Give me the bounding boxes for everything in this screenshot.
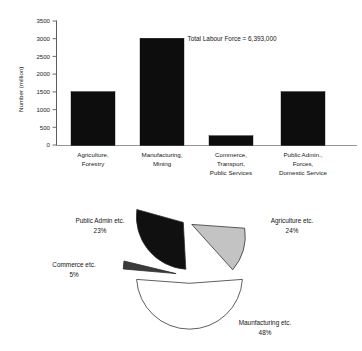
pie-label-manufacturing-percent: 48% xyxy=(259,329,272,336)
bar-chart-svg: Number (million) 3500 3000 2500 2000 150… xyxy=(0,0,362,195)
pie-label-commerce-percent: 5% xyxy=(69,271,79,278)
pie-slice-public-admin xyxy=(136,210,185,270)
pie-label-agriculture-name: Agriculture etc. xyxy=(271,217,314,225)
y-tick-label-1000: 1000 xyxy=(36,106,50,113)
category-label-public-admin-line3: Domestic Service xyxy=(279,169,328,176)
pie-chart-svg: Agriculture etc. 24% Maunfacturing etc. … xyxy=(0,195,362,351)
pie-label-public-admin-name: Public Admin etc. xyxy=(75,217,124,224)
pie-chart-panel: Agriculture etc. 24% Maunfacturing etc. … xyxy=(0,195,362,351)
category-label-manufacturing-line2: Mining xyxy=(153,160,172,167)
category-label-public-admin-line1: Public Admin., xyxy=(283,151,322,158)
category-label-commerce-line3: Public Services xyxy=(210,169,252,176)
y-tick-label-1500: 1500 xyxy=(36,88,50,95)
y-tick-label-3500: 3500 xyxy=(36,17,50,24)
y-tick-label-3000: 3000 xyxy=(36,35,50,42)
bar-agriculture xyxy=(71,92,115,146)
figure-container: Number (million) 3500 3000 2500 2000 150… xyxy=(0,0,362,351)
bar-manufacturing xyxy=(140,38,184,145)
pie-slice-agriculture xyxy=(192,224,245,269)
category-label-commerce-line1: Commerce, xyxy=(215,151,247,158)
y-tick-label-0: 0 xyxy=(47,141,51,148)
x-category-labels: Agriculture, Forestry Manufacturing, Min… xyxy=(77,151,327,176)
category-label-public-admin-line2: Forces, xyxy=(293,160,314,167)
pie-slice-manufacturing xyxy=(137,279,243,329)
total-labour-force-annotation: Total Labour Force = 6,393,000 xyxy=(188,35,277,42)
category-label-agriculture-line1: Agriculture, xyxy=(77,151,109,158)
pie-label-agriculture-percent: 24% xyxy=(286,227,299,234)
y-axis-ticks xyxy=(53,21,57,145)
category-label-commerce-line2: Transport, xyxy=(217,160,245,167)
bar-commerce xyxy=(209,136,253,146)
category-label-agriculture-line2: Forestry xyxy=(82,160,106,167)
y-tick-label-2000: 2000 xyxy=(36,70,50,77)
y-tick-label-2500: 2500 xyxy=(36,53,50,60)
pie-label-public-admin-percent: 23% xyxy=(94,227,107,234)
category-label-manufacturing-line1: Manufacturing, xyxy=(142,151,183,158)
pie-label-manufacturing-name: Maunfacturing etc. xyxy=(239,319,292,327)
y-axis-title: Number (million) xyxy=(17,67,24,112)
pie-label-commerce-name: Commerce etc. xyxy=(52,261,96,268)
bar-chart-panel: Number (million) 3500 3000 2500 2000 150… xyxy=(0,0,362,195)
y-tick-label-500: 500 xyxy=(40,124,51,131)
bar-public-admin xyxy=(281,92,325,146)
